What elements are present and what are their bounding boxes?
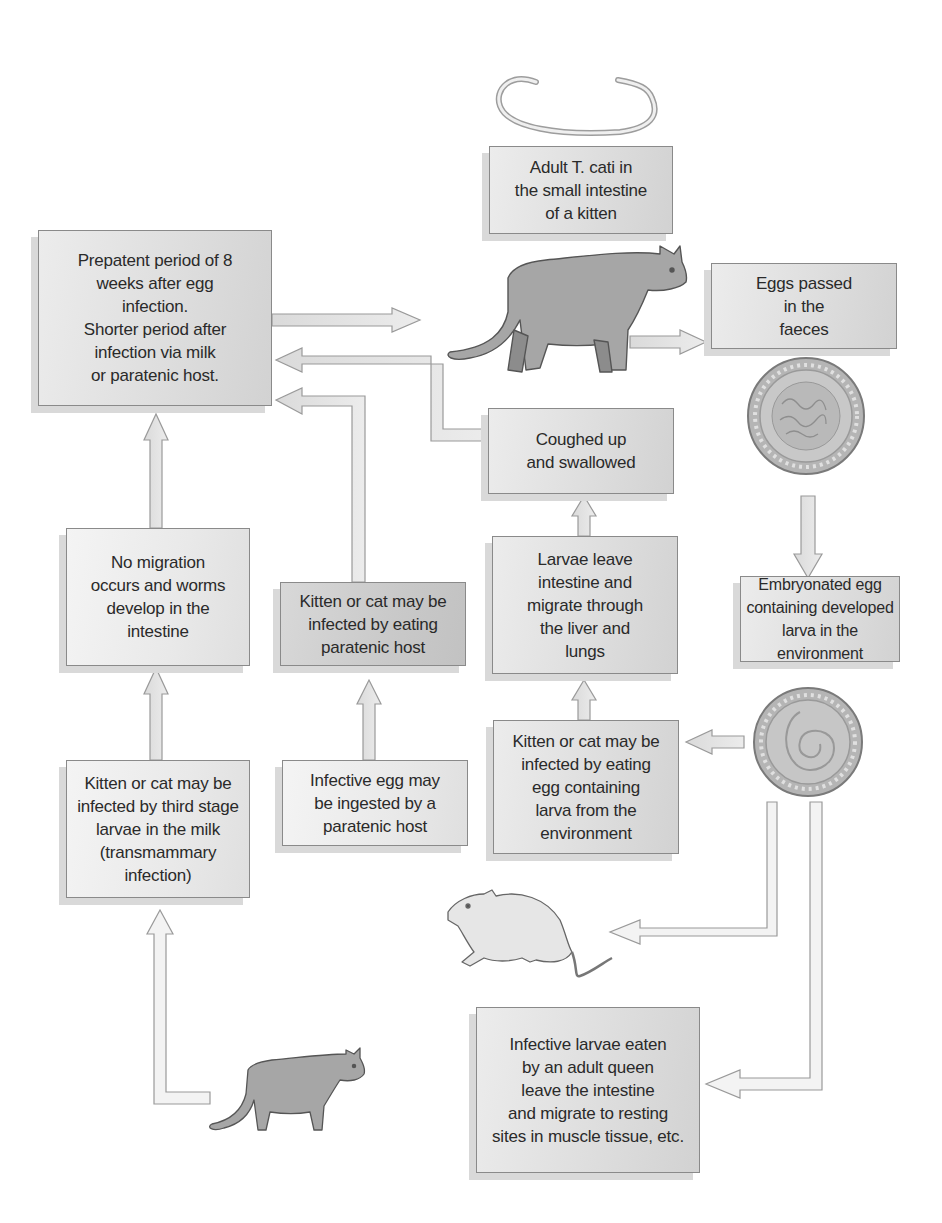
node-egg-eat: Kitten or cat may be infected by eating … (493, 720, 679, 854)
rodent-icon (448, 890, 612, 976)
node-larvae-leave: Larvae leave intestine and migrate throu… (492, 536, 678, 674)
node-adult-worm: Adult T. cati in the small intestine of … (489, 146, 673, 234)
node-coughed-up: Coughed up and swallowed (488, 408, 674, 494)
node-no-migration: No migration occurs and worms develop in… (66, 528, 250, 666)
queen-cat-icon (210, 1048, 365, 1130)
node-egg-ingested: Infective egg may be ingested by a parat… (282, 760, 468, 846)
node-prepatent-period: Prepatent period of 8 weeks after egg in… (38, 230, 272, 406)
adult-worm-icon (499, 79, 655, 133)
node-embryonated-egg: Embryonated egg containing developed lar… (740, 576, 900, 662)
toxocara-life-cycle-diagram: Adult T. cati in the small intestine of … (0, 0, 942, 1223)
unembryonated-egg-icon (748, 358, 864, 474)
node-eggs-passed: Eggs passed in the faeces (711, 263, 897, 349)
node-transmammary: Kitten or cat may be infected by third s… (66, 760, 250, 898)
kitten-icon (448, 246, 687, 372)
node-queen-larvae: Infective larvae eaten by an adult queen… (476, 1007, 700, 1173)
node-paratenic-eat: Kitten or cat may be infected by eating … (280, 582, 466, 666)
embryonated-egg-icon (754, 688, 862, 796)
